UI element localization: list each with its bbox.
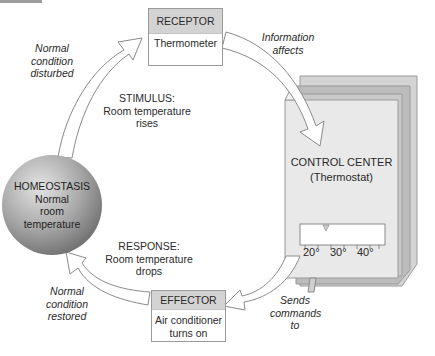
label-normal-condition-restored: Normal condition restored [42, 285, 92, 323]
stimulus-line: rises [92, 117, 202, 130]
effector-line: turns on [152, 327, 225, 340]
response-line: Room temperature [94, 253, 204, 266]
control-center-subtitle: (Thermostat) [285, 170, 398, 185]
receptor-body: Thermometer [149, 34, 222, 50]
edge-label-line: restored [42, 310, 92, 323]
edge-label-line: condition [22, 55, 82, 68]
edge-label-line: Normal [22, 42, 82, 55]
edge-label-line: condition [42, 298, 92, 311]
effector-box: EFFECTOR Air conditioner turns on [151, 290, 226, 342]
homeostasis-title: HOMEOSTASIS [2, 180, 102, 193]
homeostasis-line: Normal [2, 193, 102, 206]
effector-title: EFFECTOR [152, 291, 225, 310]
homeostasis-line: room [2, 205, 102, 218]
edge-label-line: Information [258, 31, 318, 44]
effector-body: Air conditioner turns on [152, 310, 225, 340]
stimulus-line: Room temperature [92, 105, 202, 118]
stimulus-annotation: STIMULUS: Room temperature rises [92, 92, 202, 130]
edge-label-line: Normal [42, 285, 92, 298]
control-center-label: CONTROL CENTER (Thermostat) [285, 155, 398, 185]
effector-line: Air conditioner [152, 314, 225, 327]
response-line: drops [94, 265, 204, 278]
response-annotation: RESPONSE: Room temperature drops [94, 240, 204, 278]
scale-label-20: 20° [303, 246, 320, 258]
label-information-affects: Information affects [258, 31, 318, 56]
receptor-box: RECEPTOR Thermometer [148, 8, 223, 66]
edge-label-line: commands [270, 307, 320, 320]
homeostasis-label: HOMEOSTASIS Normal room temperature [2, 180, 102, 230]
receptor-title: RECEPTOR [149, 9, 222, 34]
stimulus-line: STIMULUS: [92, 92, 202, 105]
edge-label-line: Sends [270, 294, 320, 307]
label-normal-condition-disturbed: Normal condition disturbed [22, 42, 82, 80]
edge-label-line: to [270, 319, 320, 332]
scale-label-30: 30° [330, 246, 347, 258]
scale-label-40: 40° [357, 246, 374, 258]
label-sends-commands-to: Sends commands to [270, 294, 320, 332]
homeostasis-line: temperature [2, 218, 102, 231]
control-center-title: CONTROL CENTER [285, 155, 398, 170]
response-line: RESPONSE: [94, 240, 204, 253]
edge-label-line: affects [258, 44, 318, 57]
edge-label-line: disturbed [22, 67, 82, 80]
